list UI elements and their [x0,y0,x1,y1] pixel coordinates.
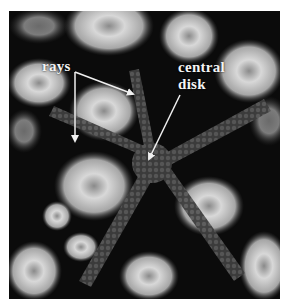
central-disk-label-line2: disk [178,77,206,92]
annotation-arrows [0,0,288,306]
central-disk-label-line1: central [178,60,225,75]
central-disk-arrow [149,95,180,159]
rays-label: rays [42,59,71,74]
rays-arrow-right [75,72,133,94]
